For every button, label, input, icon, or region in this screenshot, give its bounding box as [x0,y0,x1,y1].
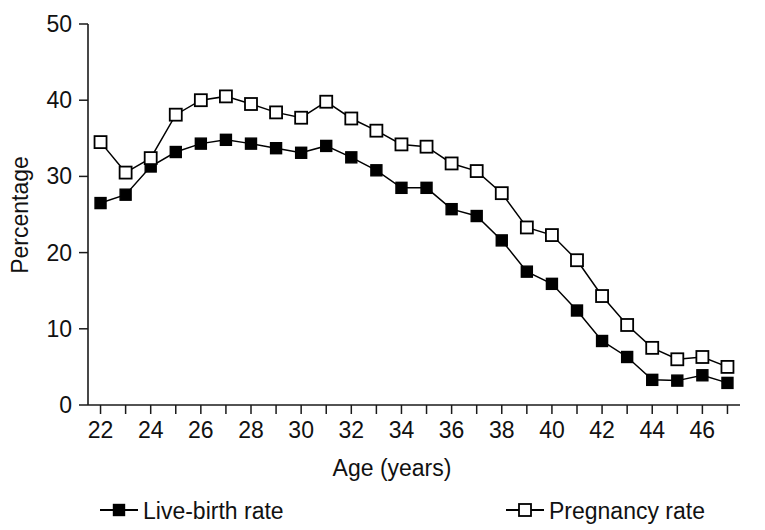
data-point [697,370,708,381]
chart-figure: 01020304050 22242628303234363840424446 L… [0,0,765,530]
y-axis-title: Percentage [7,156,33,274]
data-point [646,342,658,354]
x-axis-tick-label: 24 [138,417,164,443]
x-axis-tick-label: 30 [288,417,314,443]
data-point [446,157,458,169]
data-point [195,138,206,149]
x-axis-tick-label: 26 [188,417,214,443]
data-point [671,353,683,365]
data-point [220,90,232,102]
data-point [296,147,307,158]
x-axis-tick-label: 46 [690,417,716,443]
data-point [320,96,332,108]
data-point [521,221,533,233]
data-point [546,229,558,241]
legend-item-1: Live-birth rate [100,498,284,524]
data-point [321,140,332,151]
data-point [95,136,107,148]
data-point [446,204,457,215]
data-point [396,182,407,193]
data-point [521,266,532,277]
data-point [270,106,282,118]
data-point [120,189,131,200]
data-point [120,167,132,179]
line-chart: 01020304050 22242628303234363840424446 L… [0,0,765,530]
data-series-group [95,90,734,388]
data-point [696,351,708,363]
x-axis-tick-label: 22 [88,417,114,443]
data-point [621,319,633,331]
data-point [371,165,382,176]
data-point [597,335,608,346]
data-point [170,147,181,158]
data-point [95,198,106,209]
data-point [721,361,733,373]
y-axis-tick-label: 20 [46,240,72,266]
data-point [672,375,683,386]
data-point [471,165,483,177]
series-1 [95,134,733,388]
legend-marker [519,504,531,516]
legend-marker [114,505,125,516]
data-point [471,211,482,222]
x-axis-tick-label: 32 [339,417,365,443]
data-point [596,290,608,302]
data-point [421,182,432,193]
legend-label: Pregnancy rate [549,498,705,524]
data-point [346,152,357,163]
series-line-1 [101,140,728,383]
x-axis-tick-label: 36 [439,417,465,443]
data-point [170,109,182,121]
data-point [571,254,583,266]
data-point [421,141,433,153]
x-axis-tick-label: 44 [639,417,665,443]
data-point [145,152,157,164]
data-point [395,138,407,150]
y-axis-tick-label: 40 [46,87,72,113]
data-point [546,278,557,289]
data-point [722,377,733,388]
data-point [220,134,231,145]
x-axis-tick-label: 28 [238,417,264,443]
data-point [295,112,307,124]
data-point [496,235,507,246]
y-axis: 01020304050 [46,11,88,418]
legend-item-2: Pregnancy rate [506,498,705,524]
y-axis-tick-label: 0 [59,392,72,418]
x-axis-tick-label: 42 [589,417,615,443]
data-point [195,94,207,106]
data-point [245,98,257,110]
series-2 [95,90,734,373]
x-axis-title: Age (years) [333,455,452,481]
data-point [370,125,382,137]
y-axis-tick-label: 50 [46,11,72,37]
data-point [345,112,357,124]
x-axis: 22242628303234363840424446 [88,405,740,443]
x-axis-tick-label: 38 [489,417,515,443]
data-point [572,305,583,316]
data-point [246,138,257,149]
data-point [647,374,658,385]
data-point [496,187,508,199]
data-point [271,143,282,154]
y-axis-tick-label: 30 [46,163,72,189]
x-axis-tick-label: 34 [389,417,415,443]
x-axis-tick-label: 40 [539,417,565,443]
y-axis-tick-label: 10 [46,316,72,342]
legend-label: Live-birth rate [143,498,284,524]
data-point [622,351,633,362]
chart-legend: Live-birth ratePregnancy rate [100,498,705,524]
